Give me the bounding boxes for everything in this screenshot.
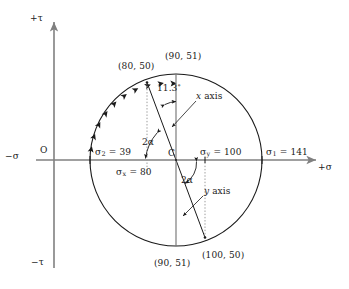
y-axis-annotation: y axis: [204, 187, 231, 196]
point-label-x-face: (80, 50): [118, 62, 154, 71]
origin-label: O: [40, 146, 47, 155]
sigma-2-value: = 39: [109, 147, 131, 157]
mohrs-circle-figure: +τ −τ +σ −σ O (80, 50) (90, 51) (90, 51)…: [0, 0, 349, 289]
y-axis-italic-letter: y: [204, 186, 209, 196]
axis-label-negative-tau: −τ: [31, 258, 44, 267]
x-axis-word: axis: [204, 91, 222, 101]
y-axis-leader-line: [183, 196, 203, 216]
axis-label-positive-tau: +τ: [30, 14, 43, 23]
sigma-y-value: = 100: [213, 147, 241, 157]
sigma-x-label: σx = 80: [116, 168, 152, 178]
sigma-1-label: σ1 = 141: [266, 148, 308, 158]
dot-x-face: [146, 81, 149, 84]
y-axis-word: axis: [212, 186, 230, 196]
sigma-x-value: = 80: [129, 167, 151, 177]
x-axis-italic-letter: x: [196, 91, 201, 101]
point-label-circle-bottom: (90, 51): [154, 259, 190, 268]
x-axis-annotation: x axis: [196, 92, 223, 101]
axis-label-positive-sigma: +σ: [318, 163, 332, 172]
sigma-1-subscript: 1: [272, 150, 277, 158]
sigma-1-value: = 141: [280, 147, 308, 157]
point-label-circle-top: (90, 51): [165, 52, 201, 61]
center-label: C: [168, 149, 175, 158]
sigma-y-subscript: y: [206, 150, 210, 158]
sigma-2-label: σ2 = 39: [95, 148, 131, 158]
angle-11-3-arc: [165, 102, 176, 105]
sigma-2-subscript: 2: [101, 150, 106, 158]
angle-label-2alpha-lower: 2α: [181, 176, 193, 185]
sigma-x-subscript: x: [122, 170, 126, 178]
axis-label-negative-sigma: −σ: [5, 152, 19, 161]
angle-label-11-3: 11.3°: [157, 84, 181, 93]
point-label-y-face: (100, 50): [202, 251, 244, 260]
angle-11-3-value: 11.3: [157, 83, 177, 93]
dot-y-face: [204, 236, 207, 239]
degree-symbol: °: [177, 83, 180, 91]
dot-center: [175, 159, 177, 161]
sigma-y-label: σy = 100: [200, 148, 241, 158]
mohrs-circle-svg: [0, 0, 349, 289]
angle-label-2alpha-upper: 2α: [142, 138, 154, 147]
